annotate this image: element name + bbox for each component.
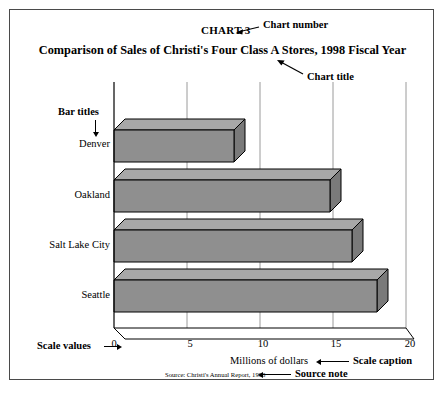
x-axis-label: Millions of dollars <box>230 355 308 366</box>
x-tick-label-20: 20 <box>398 338 422 349</box>
chart-figure: CHART 3 Chart number Chart title Compari… <box>9 9 434 380</box>
bar-oakland <box>114 169 341 212</box>
plot-area: Denver Oakland Salt Lake City Seattle Ba… <box>10 10 435 381</box>
x-tick-label-15: 15 <box>324 338 348 349</box>
bar-label-salt-lake-city: Salt Lake City <box>49 239 110 250</box>
source-note-annotation: Source note <box>295 368 348 379</box>
scale-caption-arrow-icon <box>321 361 349 362</box>
source-note: Source: Christi's Annual Report, 1998 <box>165 371 265 378</box>
bar-salt-lake-city <box>114 219 363 262</box>
scale-values-arrow-icon <box>104 346 118 347</box>
bar-label-denver: Denver <box>79 138 110 149</box>
scale-caption-annotation: Scale caption <box>353 355 412 366</box>
x-tick-label-0: 0 <box>102 338 126 349</box>
source-note-arrow-icon <box>263 374 291 375</box>
bar-label-oakland: Oakland <box>74 189 110 200</box>
scale-values-annotation: Scale values <box>37 340 91 351</box>
x-tick-label-5: 5 <box>178 338 202 349</box>
bar-denver <box>114 119 245 162</box>
bar-label-seattle: Seattle <box>81 289 110 300</box>
bar-titles-annotation: Bar titles <box>58 106 99 117</box>
bar-seattle <box>114 269 388 312</box>
bar-titles-arrow-icon <box>95 120 96 134</box>
x-tick-label-10: 10 <box>251 338 275 349</box>
